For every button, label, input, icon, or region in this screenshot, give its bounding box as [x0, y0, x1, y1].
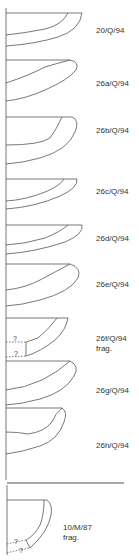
profile-26h-Q-94: [6, 408, 66, 454]
label-26d-Q-94: 26d/Q/94: [96, 234, 129, 244]
label-26h-Q-94: 26h/Q/94: [96, 441, 129, 451]
profile-20-Q-94: [6, 13, 82, 46]
label-note: frag.: [63, 533, 92, 543]
label-26b-Q-94: 26b/Q/94: [96, 126, 129, 136]
label-26a-Q-94: 26a/Q/94: [96, 79, 129, 89]
profile-26e-Q-94: [6, 264, 79, 306]
label-26f-Q-94: 26f/Q/94 frag.: [96, 334, 127, 354]
label-20-Q-94: 20/Q/94: [96, 26, 124, 36]
label-id: 26f/Q/94: [96, 334, 127, 344]
uncertain-mark: ?: [14, 349, 18, 359]
label-id: 10/M/87: [63, 523, 92, 533]
uncertain-mark: ?: [19, 546, 23, 556]
profile-26g-Q-94: [6, 361, 76, 405]
label-10-M-87: 10/M/87 frag.: [63, 523, 92, 543]
label-26c-Q-94: 26c/Q/94: [96, 187, 128, 197]
profile-26d-Q-94: [6, 225, 82, 254]
profile-drawing-sheet: ? ? ? ? 20/Q/94 26a/Q/94 26b/Q/94 26c/Q/…: [0, 0, 139, 560]
profile-26a-Q-94: [6, 60, 77, 101]
label-26g-Q-94: 26g/Q/94: [96, 386, 129, 396]
label-26e-Q-94: 26e/Q/94: [96, 280, 129, 290]
profile-26b-Q-94: [6, 117, 77, 164]
uncertain-mark: ?: [13, 334, 17, 344]
label-note: frag.: [96, 344, 127, 354]
profile-26c-Q-94: [6, 179, 77, 209]
uncertain-mark: ?: [14, 537, 18, 547]
